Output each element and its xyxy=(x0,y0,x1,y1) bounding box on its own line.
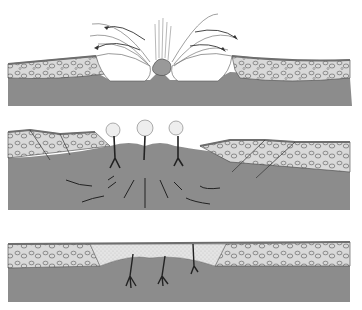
panel-plumes xyxy=(0,110,362,210)
panel-eruption xyxy=(0,0,362,110)
vertical-jets xyxy=(155,18,171,60)
right-conglomerate-layer xyxy=(215,242,350,266)
central-rock xyxy=(152,59,170,76)
plumes-cross-section xyxy=(0,110,362,210)
plumes xyxy=(106,120,183,137)
eruption-cross-section xyxy=(0,0,362,110)
right-cavity xyxy=(172,54,232,81)
panel-basin xyxy=(0,210,362,310)
basin-cross-section xyxy=(0,210,362,310)
left-conglomerate-layer xyxy=(8,244,100,268)
